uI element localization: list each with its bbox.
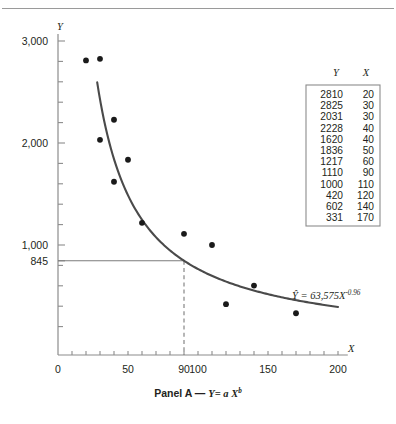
table-header-y: Y [333,67,340,78]
table-cell-x: 50 [363,145,375,156]
table-cell-y: 1620 [320,134,343,145]
tick-labels-layer: 3,0002,0001,00084505090100150200 [22,35,347,375]
table-cell-x: 30 [363,111,375,122]
table-cell-y: 602 [326,201,343,212]
data-point [97,56,103,62]
y-tick-label: 3,000 [22,35,48,47]
table-cell-x: 90 [363,167,375,178]
data-point [223,301,229,307]
fit-equation-exponent: -0.96 [345,289,360,297]
x-tick-label: 100 [189,363,207,375]
table-cell-y: 1836 [320,145,343,156]
table-header-x: X [362,67,370,78]
data-point [181,231,187,237]
axis-layer [58,34,348,355]
table-cell-x: 40 [363,134,375,145]
panel-caption: Panel A — Y= a Xb [154,387,242,399]
data-point [97,137,103,143]
caption-model-exponent: b [238,387,242,395]
fit-equation: Ŷ = 63,575X-0.96 [292,289,361,301]
data-point [83,57,89,63]
caption-prefix: Panel A [154,387,193,399]
table-cell-x: 110 [358,179,375,190]
reference-lines-layer [58,261,184,355]
data-point [111,117,117,123]
x-axis-title: X [347,343,355,354]
table-cell-y: 2825 [320,100,343,111]
data-point [293,310,299,316]
figure-panel-a: 3,0002,0001,00084505090100150200 Y X YX2… [0,0,396,424]
table-cell-x: 140 [357,201,374,212]
y-tick-label: 1,000 [22,239,48,251]
caption-model-eq: = a X [215,388,239,399]
table-cell-x: 170 [357,212,374,223]
data-point [251,283,257,289]
table-cell-y: 2810 [320,89,343,100]
data-point [125,157,131,163]
table-cell-y: 1110 [322,167,343,178]
scatter-chart: 3,0002,0001,00084505090100150200 Y X YX2… [0,0,396,424]
caption-dash: — [195,387,206,399]
table-cell-x: 60 [363,156,375,167]
data-point [139,220,145,226]
table-cell-y: 1000 [320,179,343,190]
table-cell-y: 2228 [320,123,343,134]
data-table: YX28102028253020313022284016204018365012… [306,67,380,226]
table-cell-x: 120 [357,190,374,201]
fit-curve-layer [97,82,338,307]
x-tick-label: 90 [178,363,190,375]
y-tick-label: 2,000 [22,137,48,149]
x-tick-label: 150 [259,363,277,375]
table-cell-x: 20 [363,89,375,100]
data-point [111,179,117,185]
x-tick-label: 50 [122,363,134,375]
power-fit-curve [97,82,338,307]
y-tick-label: 845 [30,255,48,267]
table-cell-y: 2031 [320,111,343,122]
x-tick-label: 200 [329,363,347,375]
fit-equation-body: = 63,575X [300,290,346,301]
data-point [209,242,215,248]
table-cell-x: 40 [363,123,375,134]
table-cell-x: 30 [363,100,375,111]
y-axis-title: Y [57,21,64,32]
table-cell-y: 1217 [320,156,343,167]
table-cell-y: 420 [326,190,343,201]
data-points-layer [83,56,299,316]
table-cell-y: 331 [326,212,343,223]
x-tick-label: 0 [55,363,61,375]
